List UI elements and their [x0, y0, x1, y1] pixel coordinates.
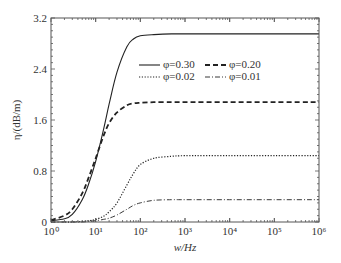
- x-tick-label: 10²: [133, 225, 148, 237]
- x-tick-label: 10³: [178, 225, 193, 237]
- legend-label: φ=0.20: [229, 58, 261, 70]
- x-tick-label: 10⁶: [312, 225, 327, 237]
- axis-ticks: [51, 18, 319, 222]
- y-tick-label: 3.2: [33, 12, 47, 24]
- line-chart: 00.81.62.43.2 10⁰10¹10²10³10⁴10⁵10⁶ w/Hz…: [0, 0, 341, 263]
- x-tick-label: 10⁰: [44, 225, 60, 237]
- series-line-1: [51, 102, 319, 220]
- y-tick-label: 2.4: [33, 63, 47, 75]
- series-line-2: [51, 156, 319, 222]
- x-tick-label: 10¹: [89, 225, 103, 237]
- y-tick-label: 0.8: [33, 165, 47, 177]
- legend-label: φ=0.30: [163, 58, 195, 70]
- x-axis-label: w/Hz: [174, 241, 197, 253]
- y-tick-label: 1.6: [33, 114, 47, 126]
- y-tick-labels: 00.81.62.43.2: [33, 12, 47, 228]
- x-tick-labels: 10⁰10¹10²10³10⁴10⁵10⁶: [44, 225, 327, 237]
- x-tick-label: 10⁴: [222, 225, 237, 237]
- legend-label: φ=0.02: [163, 70, 195, 82]
- plot-frame: [51, 18, 319, 222]
- y-axis-label: η/(dB/m): [10, 99, 23, 140]
- legend: φ=0.30φ=0.20φ=0.02φ=0.01: [139, 58, 261, 82]
- legend-label: φ=0.01: [229, 70, 261, 82]
- x-tick-label: 10⁵: [267, 225, 282, 237]
